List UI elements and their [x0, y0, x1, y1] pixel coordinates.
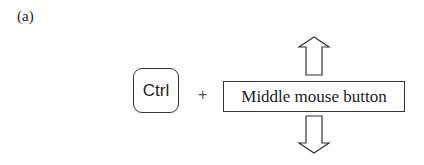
- arrow-up-outline-icon: [299, 37, 329, 75]
- arrow-down-outline-icon: [299, 116, 329, 153]
- arrows-layer: [0, 0, 424, 165]
